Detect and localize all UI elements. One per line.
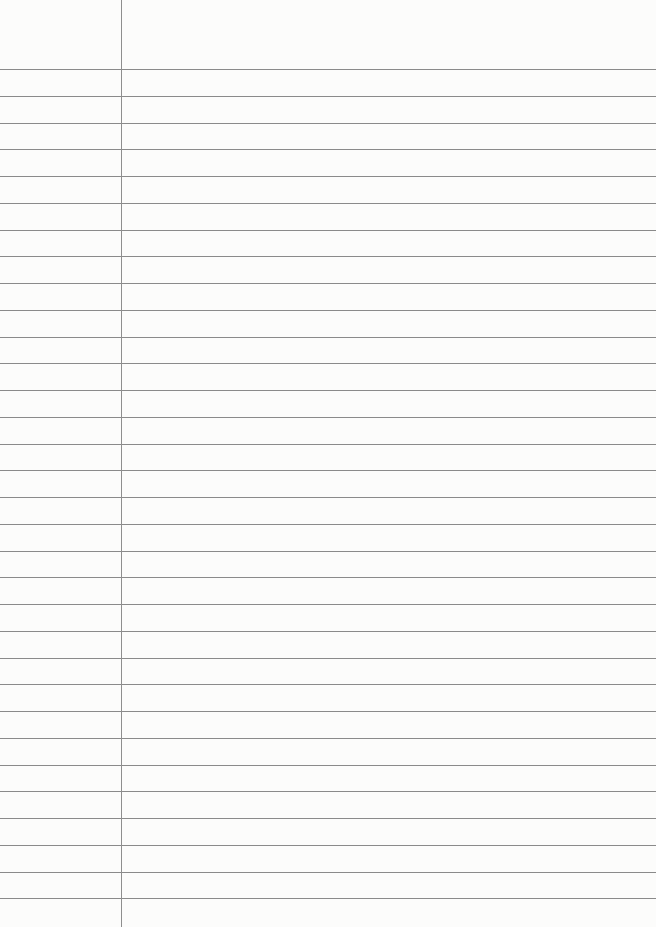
ruled-line [0, 898, 656, 899]
ruled-line [0, 684, 656, 685]
ruled-line [0, 738, 656, 739]
ruled-line [0, 390, 656, 391]
ruled-line [0, 497, 656, 498]
margin-line [121, 0, 122, 927]
ruled-line [0, 818, 656, 819]
ruled-line [0, 604, 656, 605]
ruled-line [0, 96, 656, 97]
ruled-line [0, 872, 656, 873]
ruled-line [0, 123, 656, 124]
ruled-line [0, 711, 656, 712]
ruled-line [0, 551, 656, 552]
ruled-line [0, 310, 656, 311]
ruled-line [0, 524, 656, 525]
ruled-line [0, 363, 656, 364]
ruled-line [0, 256, 656, 257]
ruled-line [0, 470, 656, 471]
ruled-line [0, 631, 656, 632]
lined-paper [0, 0, 656, 927]
ruled-line [0, 69, 656, 70]
ruled-line [0, 283, 656, 284]
ruled-line [0, 230, 656, 231]
ruled-line [0, 658, 656, 659]
ruled-line [0, 845, 656, 846]
ruled-line [0, 203, 656, 204]
ruled-line [0, 149, 656, 150]
ruled-line [0, 791, 656, 792]
ruled-line [0, 176, 656, 177]
ruled-line [0, 765, 656, 766]
ruled-line [0, 417, 656, 418]
ruled-line [0, 577, 656, 578]
ruled-line [0, 444, 656, 445]
ruled-line [0, 337, 656, 338]
